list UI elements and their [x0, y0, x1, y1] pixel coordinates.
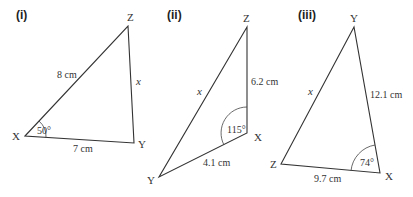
vertex-x-ii: X [254, 131, 262, 143]
side-xy-ii: 4.1 cm [203, 157, 230, 168]
triangle-ii: (ii) Z X Y 6.2 cm 4.1 cm x 115° [147, 8, 278, 186]
part-label-ii: (ii) [167, 8, 182, 22]
part-label-i: (i) [16, 8, 27, 22]
vertex-x-iii: X [385, 170, 393, 182]
triangles-figure: (i) X Z Y 8 cm 7 cm x 50° (ii) Z X Y 6.2… [0, 0, 413, 197]
vertex-z-ii: Z [243, 12, 250, 24]
side-zx-iii: 9.7 cm [314, 173, 341, 184]
side-yz-iii: x [307, 85, 313, 97]
vertex-y-ii: Y [147, 174, 155, 186]
angle-x-ii: 115° [227, 124, 246, 135]
vertex-y-i: Y [138, 138, 146, 150]
vertex-y-iii: Y [350, 12, 358, 24]
triangle-ii-shape [159, 27, 247, 177]
triangle-iii: (iii) Y Z X 12.1 cm 9.7 cm x 74° [270, 8, 402, 184]
angle-x-i: 50° [37, 125, 51, 136]
side-zy-i: x [135, 75, 141, 87]
vertex-x-i: X [12, 130, 20, 142]
side-xz-i: 8 cm [57, 69, 77, 80]
side-xy-i: 7 cm [73, 143, 93, 154]
triangle-i: (i) X Z Y 8 cm 7 cm x 50° [12, 8, 146, 154]
part-label-iii: (iii) [298, 8, 316, 22]
side-zy-ii: x [196, 85, 202, 97]
side-zx-ii: 6.2 cm [251, 76, 278, 87]
angle-x-iii: 74° [360, 157, 374, 168]
triangle-iii-shape [281, 27, 380, 173]
side-yx-iii: 12.1 cm [370, 89, 402, 100]
vertex-z-i: Z [127, 11, 134, 23]
vertex-z-iii: Z [270, 158, 277, 170]
